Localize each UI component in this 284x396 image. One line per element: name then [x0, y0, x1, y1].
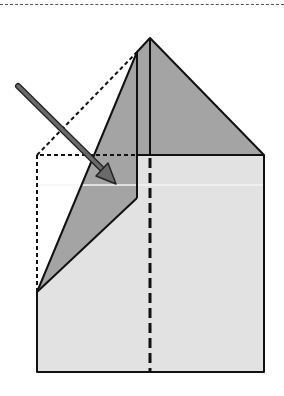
top-triangle-flap — [137, 38, 264, 155]
origami-diagram — [0, 0, 284, 396]
fold-arrow-icon — [18, 86, 116, 184]
